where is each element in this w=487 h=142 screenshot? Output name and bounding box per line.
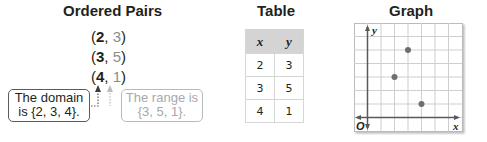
coordinate-graph: y x O (354, 23, 466, 135)
table-row: 3 5 (246, 77, 304, 100)
data-point (392, 74, 398, 80)
range-callout: The range is {3, 5, 1}. (121, 89, 203, 122)
graph-title: Graph (389, 2, 433, 19)
table-title: Table (257, 2, 295, 19)
table-header-y: y (275, 30, 304, 54)
ordered-pairs-title: Ordered Pairs (63, 2, 162, 19)
xy-table: x y 2 3 3 5 4 1 (245, 29, 304, 123)
domain-callout: The domain is {2, 3, 4}. (8, 89, 90, 122)
table-header-x: x (246, 30, 275, 54)
table-row: 2 3 (246, 54, 304, 77)
origin-label: O (356, 120, 365, 132)
ordered-pair: (3, 5) (91, 47, 126, 67)
x-axis-label: x (452, 120, 459, 132)
ordered-pair: (2, 3) (91, 27, 126, 47)
data-point (405, 47, 411, 53)
ordered-pairs-list: (2, 3) (3, 5) (4, 1) (91, 27, 126, 87)
data-point (419, 101, 425, 107)
domain-arrow-icon (90, 84, 120, 114)
y-axis-label: y (370, 24, 377, 36)
table-row: 4 1 (246, 100, 304, 123)
